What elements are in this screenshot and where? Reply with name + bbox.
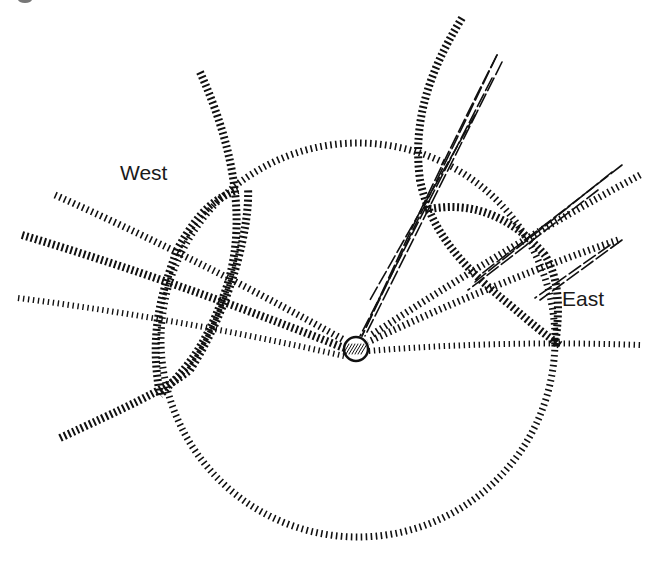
west-crossing-arc (60, 188, 248, 438)
ray-west-upper (55, 195, 344, 340)
east-strand-2 (468, 190, 598, 290)
zenith-strand-1 (365, 62, 502, 336)
west-label: West (120, 162, 167, 183)
rays-group (18, 55, 640, 356)
east-strand-1 (475, 172, 612, 282)
east-rising-arc (425, 207, 558, 345)
celestial-sphere-diagram (0, 0, 661, 565)
observer-hub-group (340, 337, 370, 361)
east-label: East (562, 288, 604, 309)
ray-east-horizon (368, 343, 640, 351)
ray-west-lower (18, 298, 344, 356)
west-meridian-arc (160, 72, 237, 395)
